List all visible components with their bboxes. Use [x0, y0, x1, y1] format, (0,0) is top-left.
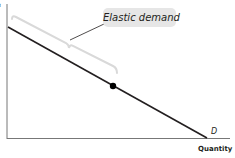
demand-curve-label: D — [211, 127, 217, 136]
x-axis-label: Quantity — [198, 145, 232, 153]
demand-curve — [8, 27, 207, 138]
y-axis-label: e — [0, 1, 1, 9]
midpoint-dot — [110, 83, 116, 89]
elastic-demand-callout: Elastic demand — [103, 8, 176, 27]
callout-leader — [70, 24, 104, 40]
elastic-bracket — [12, 16, 117, 73]
